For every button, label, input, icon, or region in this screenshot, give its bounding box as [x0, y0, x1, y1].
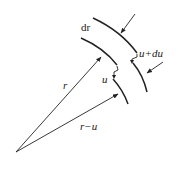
label-u-plus-du: u+du	[139, 47, 163, 59]
displacement-u-arrowhead	[112, 75, 116, 79]
inner-boundary-lower	[113, 79, 128, 104]
label-r: r	[63, 79, 68, 91]
load-arrow-right	[147, 62, 163, 73]
diagram-canvas: dr u+du u r r−u	[0, 0, 180, 169]
inner-boundary-upper	[81, 38, 117, 65]
outer-boundary-lower	[133, 63, 147, 92]
label-dr: dr	[81, 21, 91, 33]
label-u: u	[102, 73, 108, 85]
label-r-minus-u: r−u	[80, 120, 98, 132]
radius-r-arrow	[16, 57, 101, 152]
radius-r-minus-u-arrow	[16, 94, 118, 152]
load-arrow-top	[121, 14, 135, 33]
diagram-svg: dr u+du u r r−u	[0, 0, 180, 169]
